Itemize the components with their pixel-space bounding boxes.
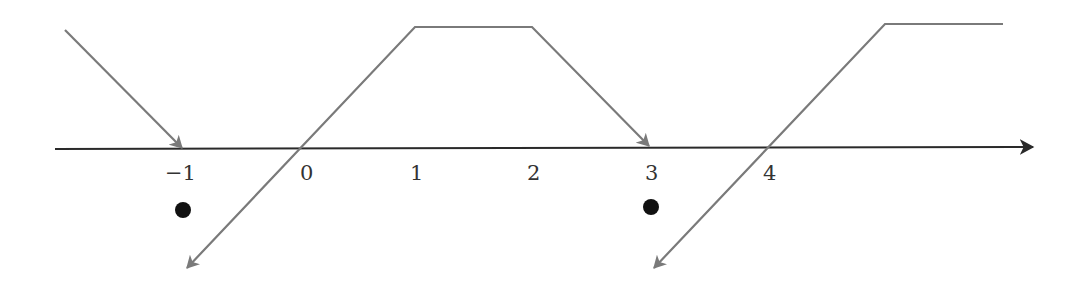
tick-label-0: 0: [300, 161, 313, 185]
tick-label-2: 2: [527, 161, 540, 185]
dot-below-3: [643, 199, 659, 215]
ramp-arrow-from-4: [654, 24, 1003, 268]
tick-label-minus-1: −1: [165, 161, 196, 185]
tick-label-3: 3: [645, 161, 658, 185]
number-line-diagram: −1 0 1 2 3 4: [0, 0, 1081, 285]
tick-label-4: 4: [763, 161, 776, 185]
dot-below-minus-1: [175, 202, 191, 218]
incoming-arrow-to-minus-1: [65, 30, 182, 148]
number-line-axis: [55, 147, 1033, 149]
tick-label-1: 1: [410, 161, 423, 185]
